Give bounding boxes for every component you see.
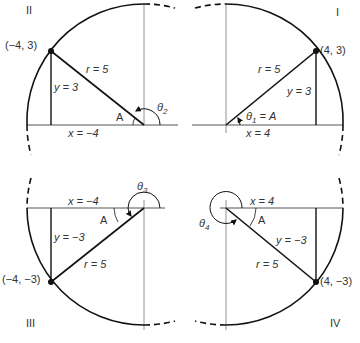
quadrant-label: II: [26, 4, 32, 16]
theta-label: θ4: [199, 217, 210, 232]
point-marker: [313, 279, 319, 285]
r-label: r = 5: [258, 63, 281, 75]
x-label: x = 4: [245, 127, 270, 139]
circle-arc-dashed: [339, 178, 343, 208]
circle-arc-dashed: [195, 321, 226, 325]
quadrant-label: I: [336, 6, 339, 18]
ref-angle-label: A: [258, 214, 266, 226]
quadrant-iii: III (−4, −3) r = 5 y = −3 x = −4 A θ3: [2, 178, 175, 330]
point-marker: [48, 48, 54, 54]
ref-angle-label: A: [116, 111, 124, 123]
point-label: (4, −3): [320, 275, 352, 287]
ref-angle-arc: [114, 208, 118, 222]
radius-line: [51, 208, 144, 282]
y-label: y = −3: [53, 231, 85, 243]
ref-angle-arc: [250, 208, 256, 226]
circle-arc: [226, 4, 343, 125]
r-label: r = 5: [84, 258, 107, 270]
circle-arc-dashed: [27, 178, 31, 208]
quadrant-diagram: II (−4, 3) r = 5 y = 3 x = −4 A θ2 I (4,…: [0, 0, 360, 343]
theta-arc: [238, 118, 240, 125]
quadrant-i: I (4, 3) r = 5 y = 3 x = 4 θ1 = A: [192, 4, 346, 155]
x-label: x = −4: [67, 195, 99, 207]
circle-arc-dashed: [339, 125, 343, 155]
theta-label: θ2: [157, 101, 168, 116]
point-label: (−4, 3): [5, 39, 37, 51]
circle-arc-dashed: [144, 321, 175, 325]
circle-arc-dashed: [144, 4, 175, 8]
y-label: y = 3: [286, 85, 312, 97]
x-label: x = −4: [67, 127, 99, 139]
point-marker: [313, 48, 319, 54]
y-label: y = 3: [53, 81, 79, 93]
quadrant-label: III: [26, 317, 35, 329]
r-label: r = 5: [256, 258, 279, 270]
circle-arc-dashed: [195, 4, 226, 8]
ref-angle-label: A: [100, 214, 108, 226]
r-label: r = 5: [86, 63, 109, 75]
point-label: (4, 3): [320, 44, 346, 56]
quadrant-iv: IV (4, −3) r = 5 y = −3 x = 4 A θ4: [195, 178, 352, 330]
quadrant-ii: II (−4, 3) r = 5 y = 3 x = −4 A θ2: [5, 4, 178, 155]
circle-arc: [226, 208, 343, 325]
circle-arc-dashed: [27, 125, 31, 155]
x-label: x = 4: [249, 195, 274, 207]
y-label: y = −3: [275, 234, 307, 246]
point-marker: [48, 279, 54, 285]
point-label: (−4, −3): [2, 273, 41, 285]
theta-label: θ1 = A: [246, 110, 276, 125]
ref-angle-arc: [133, 118, 135, 125]
quadrant-label: IV: [330, 317, 341, 329]
